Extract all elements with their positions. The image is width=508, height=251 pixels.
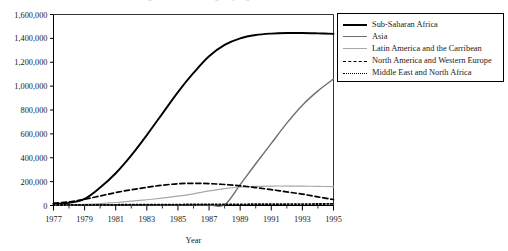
legend-item-label: Asia [372,32,387,41]
series-line-latin-america-and-the-carribean [54,186,334,205]
series-line-asia [54,79,334,206]
svg-text:1989: 1989 [232,215,249,224]
legend-line-sample-icon [343,19,367,29]
legend-item-asia[interactable]: Asia [343,30,500,42]
legend-item-sub-saharan-africa[interactable]: Sub-Saharan Africa [343,18,500,30]
legend-item-label: Middle East and North Africa [372,68,472,77]
legend-line-sample-icon [343,31,367,41]
chart-figure: Figure 1. Number of Refugees by Region 0… [0,0,508,251]
svg-text:1995: 1995 [325,215,342,224]
legend-line-sample-icon [343,68,367,78]
svg-text:1985: 1985 [170,215,187,224]
legend-line-sample-icon [343,43,367,53]
svg-text:0: 0 [43,202,47,211]
legend-line-sample-icon [343,56,367,66]
svg-text:400,000: 400,000 [21,154,48,163]
svg-text:1987: 1987 [201,215,218,224]
legend-item-label: Sub-Saharan Africa [372,20,438,29]
data-series-group [54,33,334,206]
legend-item-north-america-and-western-europe[interactable]: North America and Western Europe [343,55,500,67]
legend-item-middle-east-and-north-africa[interactable]: Middle East and North Africa [343,67,500,79]
svg-text:1,000,000: 1,000,000 [14,82,47,91]
chart-legend: Sub-Saharan Africa Asia Latin America an… [337,13,504,82]
x-axis-ticks: 1977197919811983198519871989199119931995 [45,206,342,224]
svg-text:1993: 1993 [294,215,311,224]
x-axis-title: Year [186,235,202,245]
svg-text:1981: 1981 [107,215,124,224]
axis-lines [54,15,334,206]
svg-text:1991: 1991 [263,215,280,224]
svg-text:1,400,000: 1,400,000 [14,34,47,43]
legend-item-label: North America and Western Europe [372,56,492,65]
svg-text:200,000: 200,000 [21,178,48,187]
svg-text:1,600,000: 1,600,000 [14,11,47,20]
y-axis-ticks: 0200,000400,000600,000800,0001,000,0001,… [14,11,53,211]
svg-text:1977: 1977 [45,215,62,224]
svg-text:1,200,000: 1,200,000 [14,58,47,67]
legend-item-label: Latin America and the Carribean [372,44,482,53]
svg-text:1983: 1983 [139,215,156,224]
svg-text:600,000: 600,000 [21,130,48,139]
svg-text:1979: 1979 [76,215,93,224]
legend-item-latin-america-and-the-carribean[interactable]: Latin America and the Carribean [343,42,500,54]
svg-text:800,000: 800,000 [21,106,48,115]
